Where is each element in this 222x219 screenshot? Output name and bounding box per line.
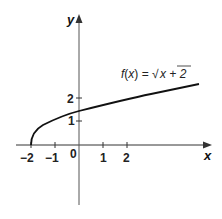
x-tick-label: −2 [20,151,34,165]
function-curve [31,84,199,145]
y-axis-arrow-icon [76,14,83,23]
function-label: f(x) = √ [121,67,159,81]
x-tick-label: −1 [45,151,59,165]
y-axis-label: y [66,12,75,27]
x-tick-label: 0 [70,147,77,161]
function-graph: −2 −1 0 1 2 1 2 x y f(x) = √ x + 2 [0,0,222,219]
x-tick-label: 2 [123,151,130,165]
function-radicand: x + 2 [159,67,187,81]
x-tick-label: 1 [100,151,107,165]
x-axis-label: x [203,148,212,163]
y-tick-label: 2 [67,92,74,106]
y-tick-label: 1 [68,114,75,128]
